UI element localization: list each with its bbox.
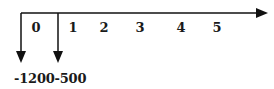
period-label-3: 3 xyxy=(135,21,144,34)
period-label-0: 0 xyxy=(31,21,40,34)
down-arrowhead-icon xyxy=(16,51,26,63)
period-label-4: 4 xyxy=(176,21,185,34)
timeline-arrowhead-icon xyxy=(256,8,268,18)
period-label-5: 5 xyxy=(212,21,221,34)
cash-flow-values: -1200-500 xyxy=(14,72,86,85)
down-arrowhead-icon xyxy=(53,51,63,63)
period-label-2: 2 xyxy=(99,21,108,34)
period-label-1: 1 xyxy=(68,21,77,34)
